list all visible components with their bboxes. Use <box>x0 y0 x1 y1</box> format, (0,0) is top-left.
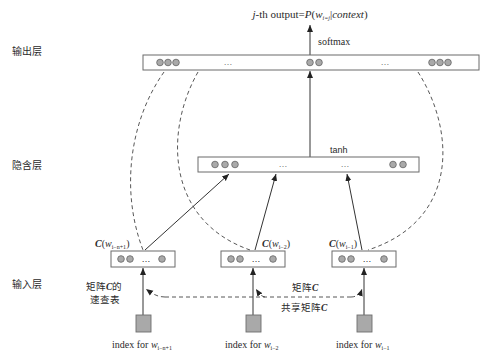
embedding-node <box>270 256 277 263</box>
shared-matrix-arrow-2 <box>256 289 265 297</box>
hidden-node <box>400 161 407 168</box>
shared-matrix-label: 共享矩阵C <box>281 302 328 313</box>
hidden-node <box>212 161 219 168</box>
embedding-box-1: … <box>111 251 175 267</box>
tanh-label: tanh <box>330 145 348 155</box>
embedding-node <box>381 256 388 263</box>
ellipsis: … <box>363 254 372 264</box>
output-node <box>445 59 452 66</box>
output-node <box>307 59 314 66</box>
index-label-2: index for wi−2 <box>225 339 279 351</box>
embedding-box-3: … <box>332 251 396 267</box>
lookup-table-label-line1: 矩阵C的 <box>86 281 122 292</box>
lookup-table-label-line2: 速查表 <box>90 294 120 305</box>
output-node <box>437 59 444 66</box>
embedding-label-1: C(wi−n+1) <box>95 238 129 250</box>
nplm-diagram: j-th output=P(wi=j|context) softmax 输出层 … <box>0 0 487 362</box>
embedding-node <box>159 256 166 263</box>
output-node <box>429 59 436 66</box>
shared-matrix-arrow-3 <box>351 289 362 297</box>
index-square-2 <box>246 315 261 332</box>
ellipsis: … <box>224 57 233 67</box>
embedding-label-3: C(wi−1) <box>329 238 357 250</box>
index-label-3: index for wi−1 <box>336 339 390 351</box>
softmax-label: softmax <box>318 36 350 47</box>
ellipsis: … <box>252 254 261 264</box>
output-node <box>157 59 164 66</box>
output-node <box>316 59 323 66</box>
index-label-1: index for wi−n+1 <box>112 339 172 351</box>
hidden-layer: … … <box>198 157 419 172</box>
hidden-layer-label: 隐含层 <box>12 159 42 171</box>
embedding-box-2: … <box>221 251 285 267</box>
ellipsis: … <box>381 57 390 67</box>
embedding-node <box>127 256 134 263</box>
output-node <box>173 59 180 66</box>
embedding-node <box>228 256 235 263</box>
matrix-c-label: 矩阵C <box>292 282 319 293</box>
output-title: j-th output=P(wi=j|context) <box>250 8 367 21</box>
embedding-node <box>237 256 244 263</box>
output-layer-label: 输出层 <box>12 45 42 57</box>
embedding-node <box>348 256 355 263</box>
output-layer: … … <box>143 55 479 70</box>
hidden-node <box>390 161 397 168</box>
shared-matrix-arrow-1 <box>146 289 165 297</box>
index-square-1 <box>136 315 151 332</box>
hidden-node <box>232 161 239 168</box>
input1-to-hidden-arrow <box>145 174 229 250</box>
ellipsis: … <box>279 159 288 169</box>
ellipsis: … <box>341 159 350 169</box>
embedding-node <box>339 256 346 263</box>
ellipsis: … <box>142 254 151 264</box>
output-node <box>165 59 172 66</box>
index-square-3 <box>357 315 372 332</box>
hidden-node <box>222 161 229 168</box>
skip-connection-left-outer <box>131 72 164 250</box>
embedding-node <box>118 256 125 263</box>
embedding-label-2: C(wi−2) <box>262 238 290 250</box>
input-layer-label: 输入层 <box>12 278 42 290</box>
